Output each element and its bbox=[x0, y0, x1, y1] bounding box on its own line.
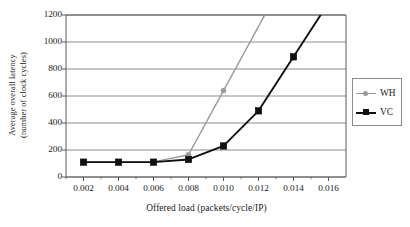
data-point-marker bbox=[150, 159, 156, 165]
series-wh bbox=[81, 0, 331, 165]
legend: WH VC bbox=[352, 78, 402, 126]
series-line-wh bbox=[84, 0, 332, 162]
data-point-marker bbox=[185, 156, 191, 162]
y-axis-ticks bbox=[62, 15, 66, 177]
legend-item-wh: WH bbox=[356, 85, 402, 101]
data-point-marker bbox=[115, 159, 121, 165]
data-point-marker bbox=[221, 88, 226, 93]
plot-area bbox=[0, 0, 410, 227]
legend-label-vc: VC bbox=[376, 107, 393, 117]
legend-swatch-vc-icon bbox=[356, 107, 376, 117]
data-point-marker bbox=[80, 159, 86, 165]
legend-item-vc: VC bbox=[356, 104, 402, 120]
legend-swatch-wh-icon bbox=[356, 88, 376, 98]
legend-label-wh: WH bbox=[376, 88, 396, 98]
latency-vs-offered-load-chart: Average overall latency (number of clock… bbox=[0, 0, 410, 227]
data-point-marker bbox=[255, 108, 261, 114]
data-point-marker bbox=[290, 54, 296, 60]
data-point-marker bbox=[220, 143, 226, 149]
x-axis-ticks bbox=[66, 177, 329, 181]
